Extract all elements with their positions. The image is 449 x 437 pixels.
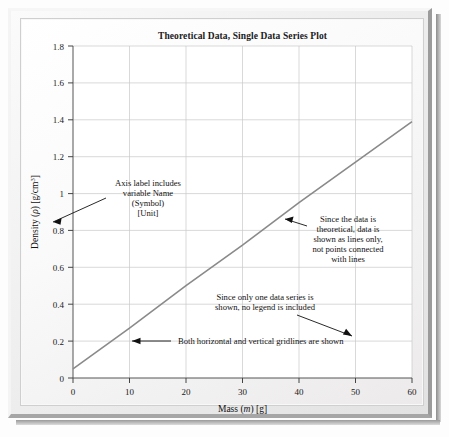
- chart-svg: 1.8 1.6 1.4 1.2 1 0.8 0.6 0.4 0.2 0 0 10…: [0, 0, 449, 437]
- annotation-line: Since only one data series is: [216, 292, 314, 302]
- x-tick-label: 60: [408, 387, 418, 397]
- chart-title: Theoretical Data, Single Data Series Plo…: [158, 31, 328, 41]
- figure-page: 1.8 1.6 1.4 1.2 1 0.8 0.6 0.4 0.2 0 0 10…: [0, 0, 449, 437]
- x-tick-label: 20: [182, 387, 192, 397]
- x-tick-label: 40: [295, 387, 305, 397]
- annotation-line: with lines: [331, 254, 365, 264]
- y-tick-label: 0.6: [53, 263, 65, 273]
- x-tick-label: 30: [238, 387, 248, 397]
- annotation-line: Both horizontal and vertical gridlines a…: [178, 336, 344, 346]
- annotation-line: Since the data is: [320, 214, 377, 224]
- x-axis-label-unit: [g]: [256, 404, 267, 414]
- x-tick-label: 10: [125, 387, 135, 397]
- annotation-line: shown, no legend is included: [215, 302, 316, 312]
- chart-container: 1.8 1.6 1.4 1.2 1 0.8 0.6 0.4 0.2 0 0 10…: [0, 0, 449, 437]
- y-tick-label: 0.8: [53, 226, 65, 236]
- annotation-arrow-head: [53, 218, 62, 225]
- annotation-line: variable Name: [123, 188, 174, 198]
- y-tick-label: 1.2: [53, 152, 64, 162]
- x-tick-label: 0: [71, 387, 76, 397]
- annotation-line: Axis label includes: [115, 178, 182, 188]
- y-axis-label-name: Density: [30, 219, 40, 249]
- annotation-line: shown as lines only,: [313, 234, 382, 244]
- y-tick-label: 1.8: [53, 42, 65, 52]
- annotation-line: (Symbol): [132, 198, 165, 208]
- y-tick-labels: 1.8 1.6 1.4 1.2 1 0.8 0.6 0.4 0.2 0: [53, 42, 65, 384]
- x-axis-label-name: Mass: [218, 404, 238, 414]
- annotation-line: [Unit]: [137, 208, 158, 218]
- annotation-line: not points connected: [312, 244, 384, 254]
- y-axis-label: Density (ρ) [g/cm3]: [29, 175, 42, 249]
- x-tick-labels: 0 10 20 30 40 50 60: [71, 387, 417, 397]
- x-axis-label: Mass (m) [g]: [218, 404, 267, 415]
- y-tick-label: 0.2: [53, 337, 64, 347]
- y-tick-label: 1.4: [53, 115, 65, 125]
- y-tick-marks: [68, 46, 73, 378]
- x-tick-label: 50: [351, 387, 361, 397]
- y-tick-label: 1: [60, 189, 65, 199]
- y-tick-label: 0.4: [53, 300, 65, 310]
- svg-text:Density (ρ) [g/cm3]: Density (ρ) [g/cm3]: [29, 175, 42, 249]
- y-tick-label: 1.6: [53, 78, 65, 88]
- annotation-line: theoretical, data is: [317, 224, 380, 234]
- x-tick-marks: [73, 378, 412, 383]
- svg-text:Mass (m) [g]: Mass (m) [g]: [218, 404, 267, 415]
- y-tick-label: 0: [60, 374, 65, 384]
